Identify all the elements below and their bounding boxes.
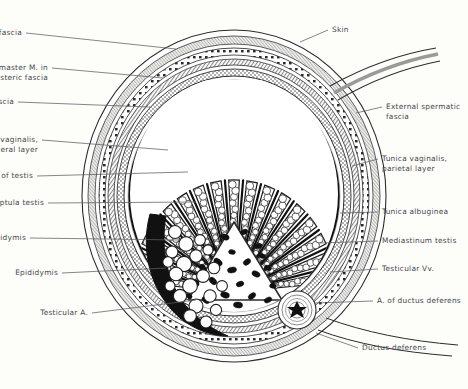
label-skin: Skin [332, 25, 349, 35]
label-septula: Septula testis [0, 198, 44, 208]
label-dartos: Dartos M. in superficial fascia [0, 28, 22, 38]
label-tunica-albuginea: Tunica albuginea [382, 207, 448, 217]
label-a-ductus-deferens: A. of ductus deferens [377, 296, 461, 306]
label-lobules: Lobules of testis [0, 171, 33, 181]
label-external-spermatic: External spermatic fascia [386, 102, 460, 121]
label-epididymis: Epididymis [15, 268, 58, 278]
label-mediastinum: Mediastinum testis [382, 236, 457, 246]
label-testicular-a: Testicular A. [40, 308, 88, 318]
label-testicular-vv: Testicular Vv. [382, 264, 434, 274]
label-cremaster: Cremaster M. in cremasteric fascia [0, 63, 48, 82]
label-tunica-visceral: Tunica vaginalis, visceral layer [0, 135, 38, 154]
label-sinus-epididymis: Sinus of epididymis [0, 233, 26, 243]
label-tunica-parietal: Tunica vaginalis, parietal layer [382, 154, 447, 173]
label-internal-spermatic: Internal spermatic fascia [0, 97, 14, 107]
label-ductus-deferens: Ductus deferens [362, 343, 426, 353]
testis-cross-section-figure [0, 0, 468, 389]
ductus-deferens-cross-section [278, 291, 316, 329]
